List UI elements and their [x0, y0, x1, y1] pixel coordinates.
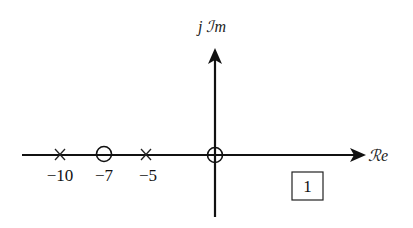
- imag-axis-label: j ℐm: [196, 18, 226, 36]
- tick-label: −5: [139, 166, 157, 185]
- tick-label: −7: [95, 166, 114, 185]
- pole-zero-plot: −10 −7 −5 ℛe j ℐm 1: [0, 0, 413, 228]
- gain-value: 1: [303, 177, 312, 196]
- tick-label: −10: [47, 166, 74, 185]
- real-axis-label: ℛe: [368, 147, 388, 164]
